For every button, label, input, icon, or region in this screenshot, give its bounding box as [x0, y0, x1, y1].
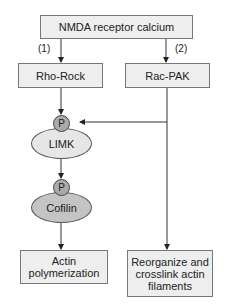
- phospho-label: P: [58, 182, 65, 193]
- outcome-line: crosslink actin: [135, 268, 204, 280]
- phospho-label: P: [58, 118, 65, 129]
- limk-label: LIMK: [49, 138, 75, 150]
- cofilin-phosphate-badge: P: [53, 179, 70, 196]
- cofilin-node: Cofilin: [31, 192, 92, 223]
- branch-label-2: (2): [175, 43, 187, 54]
- outcome-line: filaments: [148, 280, 192, 292]
- cofilin-label: Cofilin: [46, 202, 77, 214]
- rho-rock-node: Rho-Rock: [18, 63, 103, 88]
- outcome-line: Actin: [52, 255, 76, 267]
- branch-label-1: (1): [38, 43, 50, 54]
- rac-pak-label: Rac-PAK: [145, 70, 189, 82]
- nmda-receptor-calcium-node: NMDA receptor calcium: [40, 15, 193, 39]
- limk-node: LIMK: [31, 128, 92, 159]
- outcome-line: Reorganize and: [131, 256, 209, 268]
- reorganize-crosslink-node: Reorganize and crosslink actin filaments: [127, 250, 213, 297]
- nmda-label: NMDA receptor calcium: [59, 21, 175, 33]
- rac-pak-node: Rac-PAK: [125, 63, 210, 88]
- outcome-line: polymerization: [29, 267, 100, 279]
- rho-rock-label: Rho-Rock: [36, 70, 85, 82]
- actin-polymerization-node: Actin polymerization: [20, 250, 108, 284]
- limk-phosphate-badge: P: [53, 115, 70, 132]
